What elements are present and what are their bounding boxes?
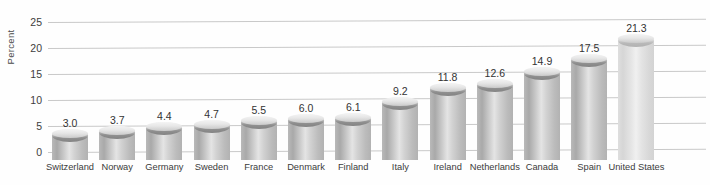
bar-value-label: 17.5 — [579, 42, 599, 54]
bar-cylinder-top-highlight — [571, 54, 607, 63]
bar-value-label: 11.8 — [438, 71, 458, 83]
bar[interactable]: 17.5Spain — [571, 0, 607, 160]
bar-value-label: 14.9 — [532, 55, 552, 67]
plot-area: 3.0Switzerland3.7Norway4.4Germany4.7Swed… — [48, 0, 708, 160]
bar-chart: Percent 0510152025 3.0Switzerland3.7Norw… — [0, 0, 710, 185]
x-axis-category-label: Ireland — [433, 162, 461, 173]
bar-cylinder-top-highlight — [288, 114, 324, 123]
bar[interactable]: 6.0Denmark — [288, 0, 324, 160]
bar-value-label: 3.7 — [110, 114, 125, 126]
y-axis-tick-label: 25 — [16, 16, 42, 28]
y-axis-tick-label: 10 — [16, 94, 42, 106]
bar[interactable]: 4.4Germany — [146, 0, 182, 160]
y-axis-tick-label: 15 — [16, 68, 42, 80]
bar[interactable]: 21.3United States — [618, 0, 654, 160]
x-axis-category-label: Germany — [145, 162, 183, 173]
bar-value-label: 5.5 — [251, 104, 266, 116]
bar[interactable]: 3.0Switzerland — [52, 0, 88, 160]
bar-body — [524, 74, 560, 160]
bar[interactable]: 9.2Italy — [382, 0, 418, 160]
bar-value-label: 21.3 — [626, 22, 646, 34]
bar-value-label: 4.4 — [157, 110, 172, 122]
bar-cylinder-top-highlight — [618, 34, 654, 43]
bar-body — [382, 104, 418, 160]
bar[interactable]: 11.8Ireland — [430, 0, 466, 160]
x-axis-category-label: Switzerland — [46, 162, 94, 173]
x-axis-category-label: Canada — [526, 162, 559, 173]
bar-body — [571, 61, 607, 160]
x-axis-category-label: Finland — [338, 162, 369, 173]
bar-body — [430, 90, 466, 160]
bar-value-label: 6.1 — [346, 101, 361, 113]
x-axis-category-label: United States — [608, 162, 664, 173]
bar-value-label: 12.6 — [485, 67, 505, 79]
bar-body — [477, 86, 513, 160]
bar-value-label: 4.7 — [204, 108, 219, 120]
bar-body — [335, 120, 371, 160]
x-axis-category-label: Italy — [392, 162, 409, 173]
bar[interactable]: 3.7Norway — [99, 0, 135, 160]
y-axis-tick-label: 20 — [16, 42, 42, 54]
bar[interactable]: 6.1Finland — [335, 0, 371, 160]
x-axis-category-label: Sweden — [195, 162, 229, 173]
y-axis-tick-label: 5 — [16, 120, 42, 132]
bar[interactable]: 12.6Netherlands — [477, 0, 513, 160]
bar[interactable]: 14.9Canada — [524, 0, 560, 160]
x-axis-category-label: Netherlands — [470, 162, 520, 173]
x-axis-category-label: Spain — [577, 162, 601, 173]
bar-body — [618, 41, 654, 160]
bar[interactable]: 4.7Sweden — [194, 0, 230, 160]
bar-value-label: 6.0 — [299, 102, 314, 114]
bar-cylinder-top-highlight — [99, 126, 135, 135]
x-axis-category-label: Norway — [101, 162, 133, 173]
bar-value-label: 9.2 — [393, 85, 408, 97]
bar[interactable]: 5.5France — [241, 0, 277, 160]
x-axis-category-label: France — [244, 162, 273, 173]
y-axis-tick-label: 0 — [16, 146, 42, 158]
bar-value-label: 3.0 — [63, 117, 78, 129]
x-axis-category-label: Denmark — [287, 162, 325, 173]
